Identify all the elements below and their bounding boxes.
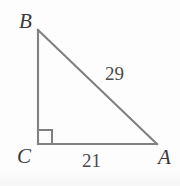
vertex-label-b: B — [19, 11, 32, 32]
right-angle-marker-icon — [38, 130, 52, 144]
side-length-base: 21 — [82, 151, 101, 170]
geometry-figure: B C A 29 21 — [0, 0, 180, 186]
vertex-label-c: C — [17, 146, 31, 167]
side-length-hypotenuse: 29 — [105, 64, 124, 83]
segment-ba-hypotenuse — [38, 30, 157, 144]
vertex-label-a: A — [158, 147, 171, 168]
